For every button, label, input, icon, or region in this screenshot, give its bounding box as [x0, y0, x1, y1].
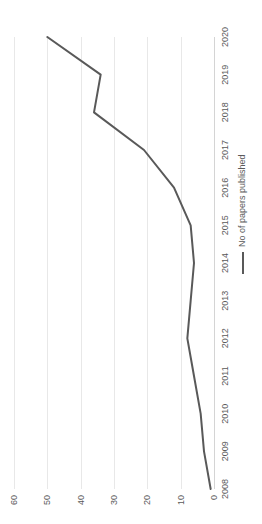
legend-label: No of papers published: [238, 154, 247, 247]
category-axis-tick-label: 2017: [221, 140, 230, 160]
value-axis-tick-label: 0: [210, 495, 219, 500]
value-axis-tick-label: 50: [43, 495, 52, 505]
category-axis-tick-label: 2010: [221, 404, 230, 424]
legend-line-swatch-icon: [242, 252, 244, 274]
category-axis-tick-label: 2008: [221, 479, 230, 499]
line-chart-figure: 0102030405060 20082009201020112012201320…: [0, 0, 262, 524]
category-axis-tick-label: 2016: [221, 178, 230, 198]
value-axis-tick-label: 10: [176, 495, 185, 505]
value-axis-tick-label: 60: [10, 495, 19, 505]
value-axis-tick-label: 30: [110, 495, 119, 505]
value-axis-tick-label: 40: [76, 495, 85, 505]
plot-area: 0102030405060 20082009201020112012201320…: [14, 37, 214, 489]
category-axis-tick-label: 2014: [221, 253, 230, 273]
category-axis-tick-label: 2012: [221, 328, 230, 348]
series-line: [47, 37, 210, 489]
category-axis-tick-label: 2019: [221, 65, 230, 85]
rotated-chart-stage: 0102030405060 20082009201020112012201320…: [0, 0, 262, 524]
category-axis-tick-label: 2020: [221, 27, 230, 47]
chart-legend: No of papers published: [238, 154, 247, 274]
series-line-layer: [14, 37, 214, 489]
category-axis-tick-label: 2015: [221, 215, 230, 235]
value-axis-tick-label: 20: [143, 495, 152, 505]
category-axis-tick-label: 2013: [221, 291, 230, 311]
category-axis-tick-label: 2018: [221, 102, 230, 122]
category-axis-tick-label: 2009: [221, 441, 230, 461]
value-axis-baseline: [214, 37, 215, 489]
category-axis-tick-label: 2011: [221, 366, 230, 385]
